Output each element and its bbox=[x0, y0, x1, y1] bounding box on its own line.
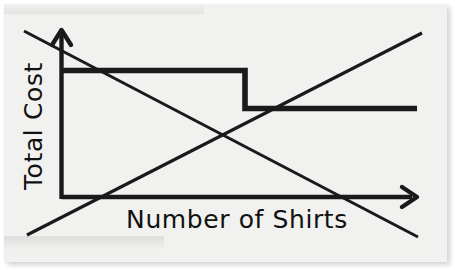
cost-vs-shirts-plot: Total Cost Number of Shirts bbox=[0, 0, 455, 270]
x-axis-label: Number of Shirts bbox=[126, 205, 348, 234]
step-cost-series bbox=[61, 71, 417, 109]
chart-screenshot: Total Cost Number of Shirts bbox=[0, 0, 455, 270]
y-axis-label: Total Cost bbox=[19, 62, 48, 191]
